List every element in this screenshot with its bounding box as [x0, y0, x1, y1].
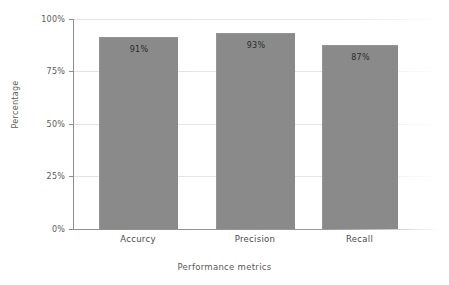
y-axis-title: Percentage	[11, 80, 20, 128]
bar-chart: 100% 75% 50% 25% 0% Percentage 91% 93% 8…	[0, 0, 449, 285]
y-axis-tick-label-100: 100%	[31, 15, 65, 24]
y-axis-tick-label-0: 0%	[31, 225, 65, 234]
bar-value-label-recall: 87%	[323, 53, 398, 62]
x-axis-category-label-accurcy: Accurcy	[99, 234, 177, 244]
y-axis-tick-label-75: 75%	[31, 67, 65, 76]
gridline-100	[74, 19, 440, 20]
bar-recall[interactable]: 87%	[322, 45, 398, 229]
x-axis-category-label-precision: Precision	[216, 234, 294, 244]
y-axis-tick-label-25: 25%	[31, 172, 65, 181]
bar-precision[interactable]: 93%	[216, 33, 295, 229]
bar-value-label-precision: 93%	[217, 41, 295, 50]
x-axis-category-label-recall: Recall	[322, 234, 397, 244]
x-axis-baseline	[74, 229, 440, 230]
y-axis-tick-label-50: 50%	[31, 120, 65, 129]
x-axis-title: Performance metrics	[0, 262, 449, 272]
bar-value-label-accurcy: 91%	[100, 45, 178, 54]
bar-accurcy[interactable]: 91%	[99, 37, 178, 229]
plot-area: 91% 93% 87%	[74, 19, 440, 229]
